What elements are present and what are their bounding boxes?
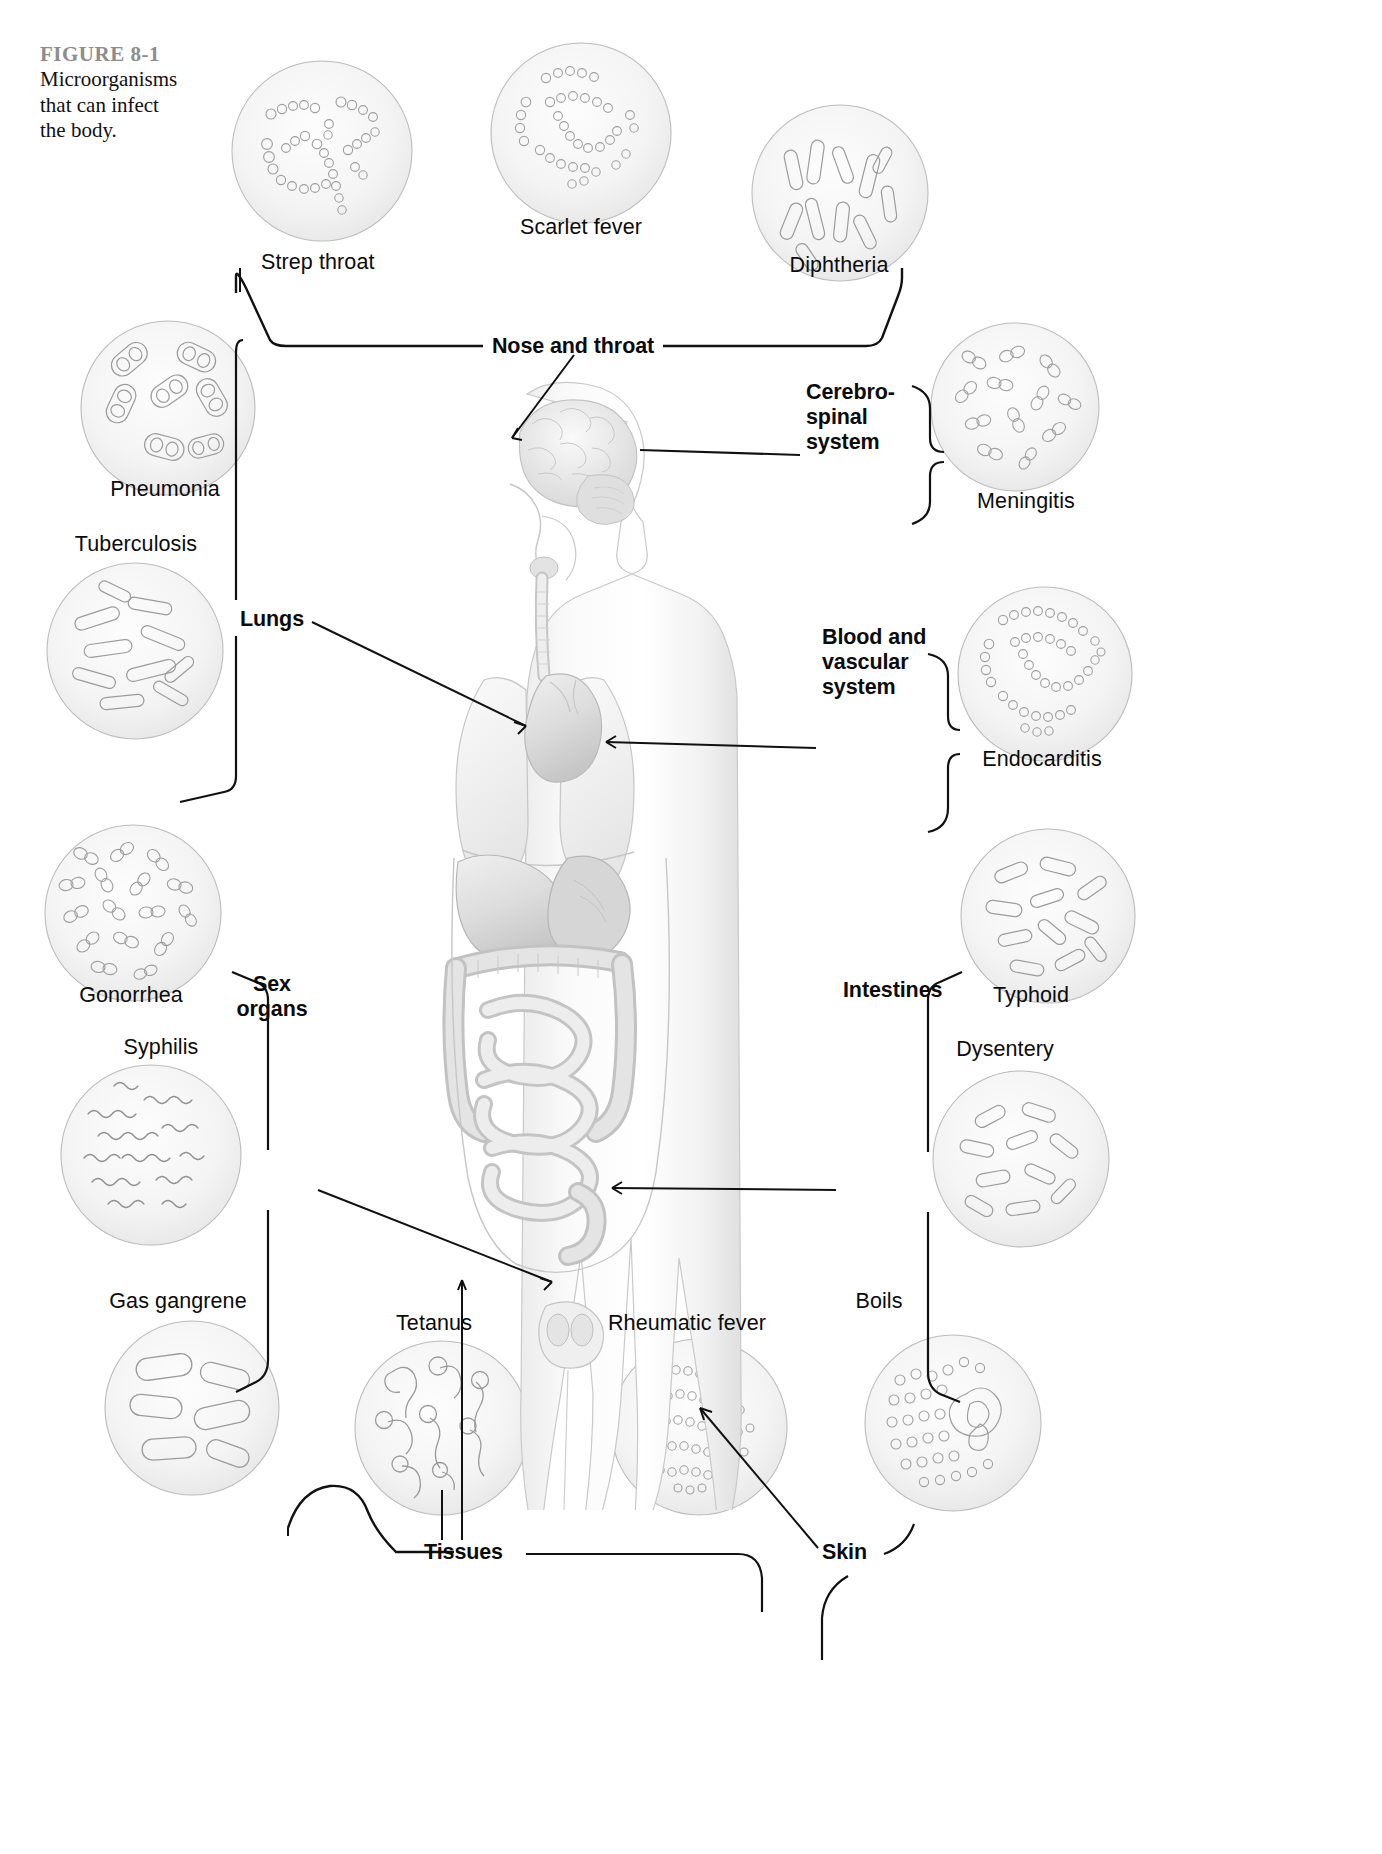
label-sex-organs: Sex organs [236, 972, 307, 1022]
label-strep-throat: Strep throat [261, 250, 375, 275]
figure-caption: FIGURE 8-1 Microorganisms that can infec… [40, 42, 240, 144]
label-rheumatic-fever: Rheumatic fever [608, 1311, 766, 1336]
label-skin: Skin [822, 1540, 867, 1565]
petri-dish-strep-throat [229, 58, 415, 244]
label-cerebro-spinal-system: Cerebro- spinal system [806, 380, 895, 455]
petri-dish-pneumonia [78, 318, 258, 498]
petri-dish-gonorrhea [42, 822, 224, 1004]
petri-dish-boils [862, 1332, 1044, 1514]
figure-number: FIGURE 8-1 [40, 42, 240, 66]
label-tuberculosis: Tuberculosis [75, 532, 197, 557]
label-pneumonia: Pneumonia [110, 477, 220, 502]
label-intestines: Intestines [843, 978, 942, 1003]
label-tetanus: Tetanus [396, 1311, 472, 1336]
figure-caption-text: Microorganisms that can infect the body. [40, 67, 240, 144]
label-dysentery: Dysentery [956, 1037, 1054, 1062]
petri-dish-scarlet-fever [488, 40, 674, 226]
petri-dish-syphilis [58, 1062, 244, 1248]
label-boils: Boils [855, 1289, 902, 1314]
label-gonorrhea: Gonorrhea [79, 983, 183, 1008]
label-scarlet-fever: Scarlet fever [520, 215, 642, 240]
petri-dish-typhoid [958, 826, 1138, 1006]
petri-dish-meningitis [928, 320, 1102, 494]
label-syphilis: Syphilis [124, 1035, 199, 1060]
label-gas-gangrene: Gas gangrene [109, 1289, 246, 1314]
label-lungs: Lungs [240, 607, 304, 632]
petri-dish-endocarditis [955, 584, 1135, 764]
label-diphtheria: Diphtheria [790, 253, 889, 278]
label-tissues: Tissues [424, 1540, 503, 1565]
label-nose-and-throat: Nose and throat [492, 334, 654, 359]
label-meningitis: Meningitis [977, 489, 1075, 514]
human-body-illustration [392, 380, 792, 1510]
petri-dish-gas-gangrene [102, 1318, 282, 1498]
petri-dish-dysentery [930, 1068, 1112, 1250]
label-typhoid: Typhoid [993, 983, 1069, 1008]
petri-dish-tuberculosis [44, 560, 226, 742]
label-blood-and-vascular-system: Blood and vascular system [822, 625, 926, 700]
label-endocarditis: Endocarditis [982, 747, 1102, 772]
figure-canvas: FIGURE 8-1 Microorganisms that can infec… [0, 0, 1382, 1854]
